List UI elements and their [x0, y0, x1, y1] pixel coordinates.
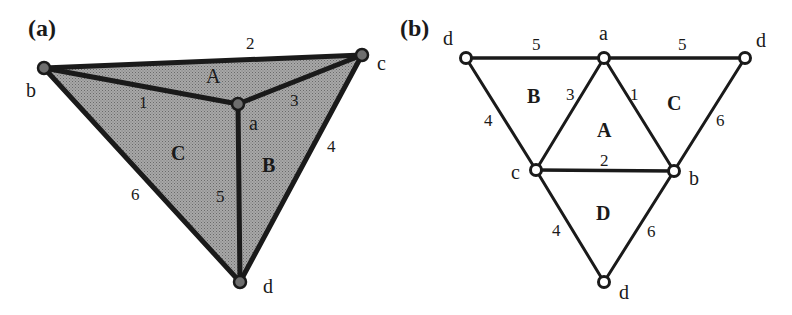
net-edge-c-d	[536, 170, 604, 282]
net-edge-a-c	[536, 58, 604, 170]
net-vertex-b	[669, 166, 680, 177]
net-edge-a-c-label: 3	[566, 85, 575, 104]
tetra-fill	[44, 55, 362, 282]
edge-3-label: 3	[290, 91, 299, 110]
net-face-C-label: C	[667, 92, 681, 114]
net-edge-right-outer-label: 6	[716, 111, 725, 130]
net-edge-left-outer-label: 4	[484, 111, 493, 130]
vertex-b-node	[38, 62, 50, 74]
panel-b-label: (b)	[400, 15, 429, 41]
face-C-label: C	[171, 142, 185, 164]
net-vertex-d-right	[740, 53, 751, 64]
net-vertex-b-label: b	[689, 167, 699, 189]
net-edge-left-outer	[466, 58, 536, 170]
net-edge-top-right-label: 5	[678, 35, 687, 54]
net-edge-right-outer	[674, 58, 745, 171]
net-vertex-d-right-label: d	[756, 29, 766, 51]
edge-1-label: 1	[139, 93, 148, 112]
net-vertex-d-left	[461, 53, 472, 64]
vertex-c-label: c	[377, 52, 386, 74]
net-edge-c-b-label: 2	[600, 151, 609, 170]
tetrahedron-figure: (a) b c a d 2 1 3 4 5 6 A C B	[0, 0, 792, 315]
edge-4-label: 4	[327, 137, 336, 156]
net-edge-b-d-label: 6	[647, 222, 656, 241]
vertex-d-label: d	[263, 275, 273, 297]
net-face-B-label: B	[527, 85, 540, 107]
face-A-label: A	[206, 65, 221, 87]
net-edge-c-d-label: 4	[552, 221, 561, 240]
edge-5-label: 5	[216, 187, 225, 206]
net-edge-b-d	[604, 171, 674, 282]
net-vertex-d-bottom-label: d	[619, 281, 629, 303]
net-face-D-label: D	[596, 202, 610, 224]
vertex-a-label: a	[249, 112, 258, 134]
net-vertex-a	[599, 53, 610, 64]
edge-2-label: 2	[246, 34, 255, 53]
net-vertex-d-bottom	[599, 277, 610, 288]
vertex-a-node	[232, 98, 244, 110]
panel-a: (a) b c a d 2 1 3 4 5 6 A C B	[26, 15, 386, 297]
net-edge-top-left-label: 5	[532, 35, 541, 54]
panel-b: (b) d a d c b d 5 5 4 3 1 6 2 4 6 B A C …	[400, 15, 766, 303]
net-edge-a-b-label: 1	[630, 85, 639, 104]
face-B-label: B	[262, 154, 275, 176]
net-face-A-label: A	[597, 119, 612, 141]
net-edge-a-b	[604, 58, 674, 171]
panel-a-label: (a)	[28, 15, 56, 41]
vertex-b-label: b	[26, 79, 36, 101]
net-vertex-a-label: a	[599, 22, 608, 44]
vertex-d-node	[234, 276, 246, 288]
net-vertex-c	[531, 165, 542, 176]
edge-6-label: 6	[131, 185, 140, 204]
vertex-c-node	[356, 49, 368, 61]
net-edge-c-b	[536, 170, 674, 171]
net-vertex-c-label: c	[511, 161, 520, 183]
net-vertex-d-left-label: d	[443, 27, 453, 49]
edge-5	[238, 104, 240, 282]
